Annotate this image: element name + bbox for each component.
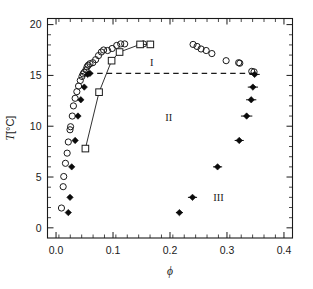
plot-frame — [48, 19, 293, 239]
data-point-open-circle — [62, 160, 68, 166]
data-point-open-circle — [61, 173, 67, 179]
data-point-filled-diamond — [250, 84, 256, 90]
data-point-open-circle — [114, 42, 120, 48]
open-circle-markers — [58, 41, 257, 211]
y-axis-minor-ticks — [48, 35, 293, 218]
y-tick-label: 10 — [30, 120, 42, 132]
data-point-open-circle — [60, 184, 66, 190]
region-label-ii: II — [165, 112, 172, 123]
data-point-open-circle — [223, 58, 229, 64]
data-point-open-square — [82, 145, 89, 152]
data-point-filled-diamond — [248, 97, 254, 103]
y-axis-title-group: T [°C] — [4, 116, 16, 141]
data-point-filled-diamond — [236, 137, 242, 143]
data-point-filled-diamond — [72, 137, 78, 143]
x-axis-minor-ticks — [59, 19, 276, 239]
data-point-open-square — [96, 89, 103, 96]
data-point-filled-diamond — [176, 209, 182, 215]
data-point-filled-diamond — [75, 113, 81, 119]
data-point-open-circle — [58, 205, 64, 211]
x-tick-label: 0.1 — [106, 244, 121, 256]
data-point-open-circle — [77, 77, 83, 83]
y-tick-label: 5 — [36, 171, 42, 183]
region-label-iii: III — [213, 192, 224, 203]
data-point-open-circle — [64, 150, 70, 156]
data-point-open-circle — [65, 139, 71, 145]
x-tick-label: 0.4 — [277, 244, 292, 256]
data-point-open-circle — [122, 41, 128, 47]
data-point-filled-diamond — [67, 194, 73, 200]
data-point-open-square — [116, 49, 123, 56]
region-labels: IIIIII — [150, 57, 224, 204]
data-point-open-circle — [209, 50, 215, 56]
data-point-open-square — [147, 41, 154, 48]
x-axis-tick-labels: 0.00.10.20.30.4 — [49, 244, 292, 256]
data-point-filled-diamond — [81, 84, 87, 90]
data-point-open-circle — [70, 103, 76, 109]
x-tick-label: 0.3 — [220, 244, 235, 256]
data-point-filled-diamond — [69, 164, 75, 170]
y-tick-label: 20 — [30, 18, 42, 30]
x-tick-label: 0.2 — [163, 244, 178, 256]
phase-diagram-plot: 0.00.10.20.30.4 05101520 IIIIII ϕ T [°C] — [0, 0, 313, 289]
y-axis-major-ticks — [48, 25, 293, 228]
data-point-open-square — [108, 57, 115, 64]
x-axis-title: ϕ — [167, 265, 173, 278]
y-tick-label: 0 — [36, 222, 42, 234]
y-tick-label: 15 — [30, 69, 42, 81]
region-label-i: I — [150, 57, 154, 68]
y-axis-tick-labels: 05101520 — [30, 18, 42, 233]
x-tick-label: 0.0 — [49, 244, 64, 256]
data-point-filled-diamond — [214, 164, 220, 170]
data-point-open-circle — [72, 95, 78, 101]
data-point-filled-diamond — [65, 209, 71, 215]
filled-diamond-markers — [65, 70, 260, 216]
y-axis-title-units: [°C] — [4, 116, 16, 134]
data-point-open-square — [137, 41, 144, 48]
data-point-filled-diamond — [189, 194, 195, 200]
phase-diagram-figure: 0.00.10.20.30.4 05101520 IIIIII ϕ T [°C] — [0, 0, 313, 289]
data-point-filled-diamond — [243, 113, 249, 119]
